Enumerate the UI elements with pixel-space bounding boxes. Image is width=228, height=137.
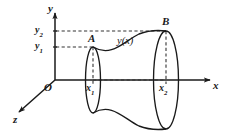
y-axis-label: y <box>48 3 53 14</box>
figure-surface-of-revolution: y x z O y2 y1 x1 x2 A B y(x) <box>0 0 228 137</box>
y1-tick-label: y1 <box>35 41 43 54</box>
z-axis-label: z <box>13 114 17 125</box>
x1-tick-label: x1 <box>86 83 94 96</box>
figure-canvas <box>0 0 228 137</box>
origin-label: O <box>44 82 52 93</box>
x-axis-label: x <box>213 80 219 91</box>
curve-function-label: y(x) <box>117 36 133 47</box>
lower-profile-curve <box>93 109 166 129</box>
reference-lines-group <box>56 31 166 84</box>
point-label-B: B <box>162 16 169 27</box>
point-label-A: A <box>88 33 95 44</box>
y2-tick-label: y2 <box>35 25 43 38</box>
x2-tick-label: x2 <box>159 83 167 96</box>
axis-group <box>19 13 210 112</box>
